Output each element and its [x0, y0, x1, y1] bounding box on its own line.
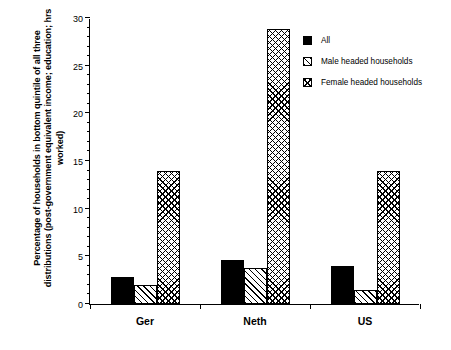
bar-ger-male-headed-households [134, 285, 157, 304]
bar-us-male-headed-households [354, 290, 377, 304]
legend-swatch-icon [303, 57, 312, 66]
y-axis-title: Percentage of households in bottom quint… [21, 3, 77, 293]
y-axis-tick [85, 65, 90, 66]
legend-item-all: All [303, 32, 449, 48]
legend-label: All [321, 36, 330, 45]
y-axis-minor-tick [87, 284, 90, 285]
y-axis-minor-tick [87, 236, 90, 237]
chart-legend: AllMale headed householdsFemale headed h… [303, 32, 449, 95]
bar-neth-female-headed-households [267, 29, 290, 304]
y-axis-minor-tick [87, 170, 90, 171]
x-axis-group-label-neth: Neth [243, 315, 266, 327]
y-axis-minor-tick [87, 93, 90, 94]
x-axis-tick [200, 304, 201, 309]
y-axis-minor-tick [87, 189, 90, 190]
y-axis-minor-tick [87, 55, 90, 56]
y-axis-minor-tick [87, 122, 90, 123]
bar-neth-all [221, 260, 244, 304]
y-axis-tick-label: 30 [73, 14, 83, 24]
y-axis-tick-label: 0 [78, 300, 83, 310]
legend-item-male-headed-households: Male headed households [303, 53, 449, 69]
y-axis-minor-tick [87, 74, 90, 75]
x-axis-group-label-ger: Ger [136, 315, 154, 327]
y-axis-minor-tick [87, 27, 90, 28]
x-axis-group-label-us: US [358, 315, 373, 327]
bar-ger-female-headed-households [157, 171, 180, 304]
bar-neth-male-headed-households [244, 268, 267, 304]
y-axis-minor-tick [87, 198, 90, 199]
bar-chart: Percentage of households in bottom quint… [0, 0, 451, 350]
y-axis-title-text: Percentage of households in bottom quint… [32, 3, 67, 293]
bar-us-all [331, 266, 354, 304]
y-axis-minor-tick [87, 84, 90, 85]
legend-label: Female headed households [321, 78, 422, 87]
y-axis-minor-tick [87, 131, 90, 132]
y-axis-tick-label: 5 [78, 252, 83, 262]
bar-ger-all [111, 277, 134, 304]
y-axis-tick [85, 255, 90, 256]
bar-us-female-headed-households [377, 171, 400, 304]
y-axis-minor-tick [87, 217, 90, 218]
y-axis-minor-tick [87, 141, 90, 142]
y-axis-minor-tick [87, 246, 90, 247]
y-axis-tick-label: 20 [73, 109, 83, 119]
y-axis-minor-tick [87, 265, 90, 266]
y-axis-minor-tick [87, 179, 90, 180]
x-axis-tick [420, 304, 421, 309]
y-axis-minor-tick [87, 227, 90, 228]
y-axis-tick [85, 160, 90, 161]
y-axis-tick-label: 10 [73, 205, 83, 215]
y-axis-tick [85, 112, 90, 113]
y-axis-tick-label: 25 [73, 62, 83, 72]
x-axis-tick [310, 304, 311, 309]
y-axis-tick [85, 17, 90, 18]
y-axis-minor-tick [87, 103, 90, 104]
legend-swatch-icon [303, 78, 312, 87]
y-axis-minor-tick [87, 150, 90, 151]
legend-label: Male headed households [321, 57, 413, 66]
y-axis-tick [85, 208, 90, 209]
x-axis-tick [90, 304, 91, 309]
y-axis-minor-tick [87, 274, 90, 275]
y-axis-minor-tick [87, 293, 90, 294]
y-axis-tick-label: 15 [73, 157, 83, 167]
y-axis-minor-tick [87, 46, 90, 47]
y-axis-minor-tick [87, 36, 90, 37]
legend-item-female-headed-households: Female headed households [303, 74, 449, 90]
legend-swatch-icon [303, 36, 312, 45]
